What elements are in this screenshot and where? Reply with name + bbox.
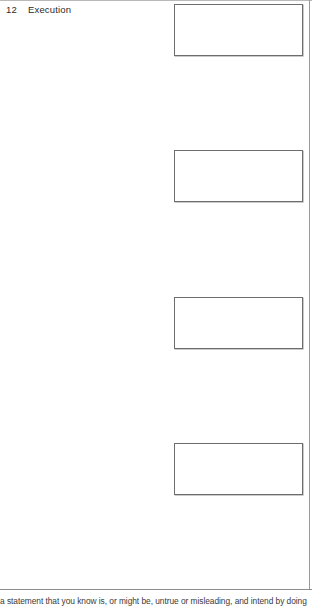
body-text-line: a statement that you know is, or might b… <box>0 596 312 606</box>
chapter-title: Execution <box>28 4 71 15</box>
figure-box <box>174 297 303 349</box>
right-margin-rule <box>309 0 310 589</box>
document-page: 12 Execution a statement that you know i… <box>0 0 312 607</box>
top-rule <box>0 0 312 1</box>
figure-box <box>174 150 303 202</box>
figure-box <box>174 443 303 495</box>
page-folio-number: 12 <box>6 4 28 15</box>
figure-box <box>174 4 303 56</box>
running-head: 12 Execution <box>6 4 71 15</box>
bottom-rule <box>0 589 312 590</box>
body-text-region: a statement that you know is, or might b… <box>0 596 312 607</box>
